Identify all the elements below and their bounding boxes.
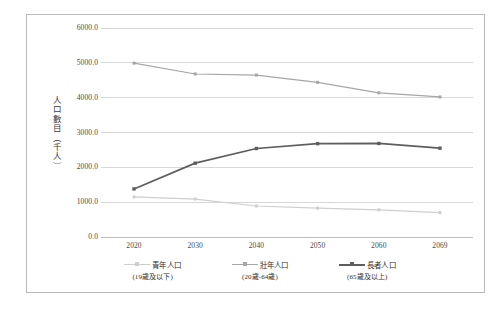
x-axis-tick-label: 2060 xyxy=(356,241,402,250)
data-point-marker xyxy=(255,205,258,208)
data-point-marker xyxy=(255,147,258,150)
series-line xyxy=(134,143,440,188)
legend-label: 長者人口 xyxy=(367,259,396,270)
legend-line-swatch-icon xyxy=(339,260,365,269)
x-axis-tick-label: 2030 xyxy=(172,241,218,250)
legend-sublabel: (19歲及以下) xyxy=(132,271,172,281)
chart-legend: 青年人口(19歲及以下)壯年人口(20歲-64歲)長者人口(65歲及以上) xyxy=(110,259,410,281)
data-point-marker xyxy=(377,142,380,145)
legend-marker-icon xyxy=(135,262,139,266)
y-axis-tick-label: 2000.0 xyxy=(52,162,98,171)
legend-item[interactable]: 長者人口(65歲及以上) xyxy=(325,259,410,281)
data-point-marker xyxy=(377,208,380,211)
data-point-marker xyxy=(316,207,319,210)
data-point-marker xyxy=(439,211,442,214)
legend-item[interactable]: 壯年人口(20歲-64歲) xyxy=(217,259,302,281)
legend-item[interactable]: 青年人口(19歲及以下) xyxy=(110,259,195,281)
y-axis-tick-label: 5000.0 xyxy=(52,58,98,67)
y-axis-tick-label: 0.0 xyxy=(52,232,98,241)
data-point-marker xyxy=(439,95,442,98)
data-point-marker xyxy=(316,142,319,145)
data-point-marker xyxy=(133,62,136,65)
legend-top-row: 壯年人口 xyxy=(232,259,289,270)
data-point-marker xyxy=(438,146,441,149)
gridlines xyxy=(101,28,473,237)
legend-label: 青年人口 xyxy=(152,259,181,270)
series-line xyxy=(134,197,440,213)
data-point-marker xyxy=(194,161,197,164)
data-point-marker xyxy=(377,91,380,94)
data-point-marker xyxy=(194,198,197,201)
legend-label: 壯年人口 xyxy=(260,259,289,270)
x-axis-tick-label: 2069 xyxy=(417,241,463,250)
x-axis-tick-label: 2020 xyxy=(111,241,157,250)
y-axis-tick-label: 6000.0 xyxy=(52,23,98,32)
legend-sublabel: (65歲及以上) xyxy=(347,271,387,281)
legend-top-row: 長者人口 xyxy=(339,259,396,270)
legend-line-swatch-icon xyxy=(124,260,150,269)
legend-sublabel: (20歲-64歲) xyxy=(242,271,278,281)
series-2 xyxy=(132,142,441,191)
legend-marker-icon xyxy=(350,262,354,266)
series-1 xyxy=(133,62,442,99)
legend-marker-icon xyxy=(243,262,247,266)
y-axis-tick-label: 3000.0 xyxy=(52,128,98,137)
series-line xyxy=(134,63,440,97)
data-point-marker xyxy=(255,74,258,77)
y-axis-tick-label: 4000.0 xyxy=(52,93,98,102)
data-point-marker xyxy=(132,187,135,190)
x-axis-tick-label: 2040 xyxy=(233,241,279,250)
series-0 xyxy=(133,195,442,214)
legend-top-row: 青年人口 xyxy=(124,259,181,270)
x-axis-tick-label: 2050 xyxy=(295,241,341,250)
legend-line-swatch-icon xyxy=(232,260,258,269)
y-axis-tick-label: 1000.0 xyxy=(52,197,98,206)
data-point-marker xyxy=(194,72,197,75)
data-point-marker xyxy=(316,81,319,84)
data-point-marker xyxy=(133,195,136,198)
series-layer xyxy=(132,62,441,214)
